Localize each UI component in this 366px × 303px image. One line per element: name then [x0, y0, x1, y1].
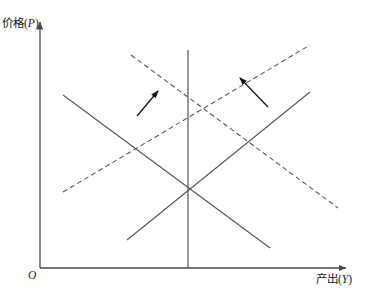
- ad-curve-shifted: [131, 55, 338, 208]
- y-axis-label-variable: P: [28, 17, 35, 29]
- x-axis-label-text: 产出(: [316, 273, 342, 285]
- sras-curve-initial: [127, 92, 310, 240]
- shift-arrow-right-icon: [240, 78, 268, 107]
- x-axis-label: 产出(Y): [316, 274, 352, 286]
- axes-group: [40, 22, 346, 268]
- y-axis-label: 价格(P): [2, 18, 39, 30]
- x-axis-label-close: ): [348, 273, 352, 285]
- y-axis-label-close: ): [35, 17, 39, 29]
- ad-as-diagram-figure: 价格(P) 产出(Y) O: [0, 0, 366, 303]
- ad-curve-initial: [63, 95, 270, 248]
- shift-arrows-group: [137, 78, 268, 116]
- diagram-canvas: [0, 0, 366, 303]
- sras-curve-shifted: [63, 45, 310, 192]
- y-axis-label-text: 价格(: [2, 17, 28, 29]
- origin-label: O: [28, 270, 36, 282]
- curves-group: [63, 45, 338, 268]
- shift-arrow-left-icon: [137, 91, 158, 116]
